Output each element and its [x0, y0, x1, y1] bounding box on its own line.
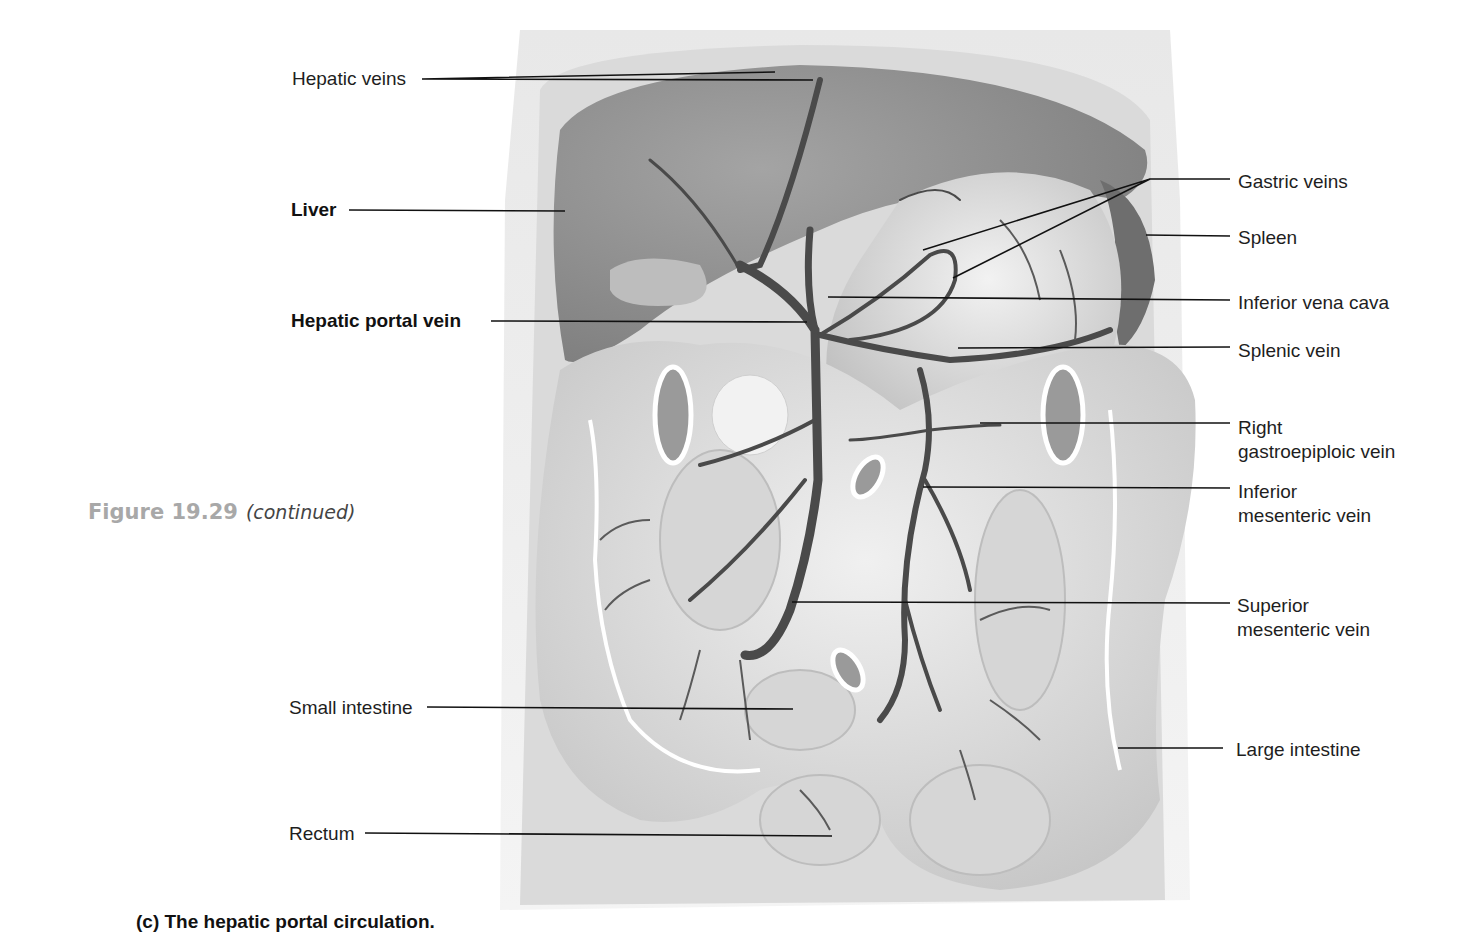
hepatic-portal-illustration [0, 0, 1469, 946]
label-small-intestine: Small intestine [289, 696, 413, 720]
label-splenic-vein: Splenic vein [1238, 339, 1340, 363]
pancreas-shape [712, 375, 788, 455]
leader-hepatic-portal-vein [491, 321, 807, 322]
figure-number: Figure 19.29 [88, 500, 238, 524]
leader-superior-mesenteric-vein [792, 602, 1230, 603]
label-inferior-mesenteric-vein: Inferior mesenteric vein [1238, 480, 1371, 528]
figure-continued-note: (continued) [246, 501, 356, 523]
label-gastric-veins: Gastric veins [1238, 170, 1348, 194]
label-line-2: gastroepiploic vein [1238, 440, 1395, 464]
label-line-1: Superior [1237, 594, 1370, 618]
label-line-1: Right [1238, 416, 1395, 440]
label-right-gastroepiploic-vein: Right gastroepiploic vein [1238, 416, 1395, 464]
label-large-intestine: Large intestine [1236, 738, 1361, 762]
label-superior-mesenteric-vein: Superior mesenteric vein [1237, 594, 1370, 642]
leader-spleen [1146, 235, 1230, 236]
label-line-2: mesenteric vein [1238, 504, 1371, 528]
label-line-1: Inferior [1238, 480, 1371, 504]
leader-splenic-vein [958, 347, 1230, 348]
label-hepatic-veins: Hepatic veins [292, 67, 406, 91]
label-rectum: Rectum [289, 822, 354, 846]
label-line-2: mesenteric vein [1237, 618, 1370, 642]
label-inferior-vena-cava: Inferior vena cava [1238, 291, 1389, 315]
figure-reference: Figure 19.29(continued) [88, 500, 355, 524]
figure-caption: (c) The hepatic portal circulation. [136, 911, 435, 933]
label-liver: Liver [291, 198, 336, 222]
leader-liver [349, 210, 565, 211]
label-spleen: Spleen [1238, 226, 1297, 250]
leader-inferior-mesenteric-vein [923, 487, 1230, 488]
label-hepatic-portal-vein: Hepatic portal vein [291, 309, 461, 333]
